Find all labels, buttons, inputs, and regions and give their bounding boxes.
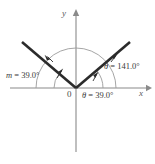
x-axis-label: x <box>139 89 143 98</box>
left-angle-label: m = 39.0° <box>6 71 39 80</box>
right-angle-value: = 141.0° <box>110 61 139 71</box>
geometry-figure: y x 0 m = 39.0° θ = 141.0° θ = 39.0° <box>0 0 155 164</box>
origin-label: 0 <box>67 90 72 99</box>
small-arc-right <box>97 71 103 88</box>
diagram-canvas <box>0 0 155 164</box>
left-angle-symbol: m <box>6 70 12 80</box>
y-axis <box>73 9 79 152</box>
right-angle-symbol: θ <box>104 61 108 71</box>
y-axis-label: y <box>62 9 66 18</box>
bottom-angle-label: θ = 39.0° <box>82 91 114 100</box>
right-angle-label: θ = 141.0° <box>104 62 140 71</box>
x-axis <box>10 85 152 91</box>
bottom-angle-value: = 39.0° <box>88 90 113 100</box>
bottom-angle-symbol: θ <box>82 90 86 100</box>
left-angle-value: = 39.0° <box>14 70 39 80</box>
